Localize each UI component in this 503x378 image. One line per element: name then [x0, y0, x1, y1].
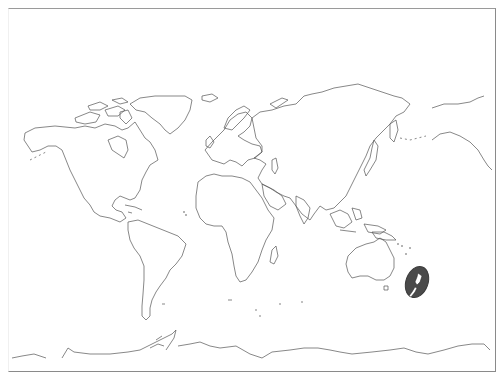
- arabian-peninsula: [262, 184, 286, 210]
- japan: [364, 140, 378, 176]
- island: [397, 243, 399, 245]
- novaya-zemlya: [270, 98, 288, 108]
- madagascar: [270, 246, 278, 264]
- australia: [346, 238, 394, 280]
- antarctic-peninsula-islands: [150, 336, 164, 348]
- alaska: [432, 132, 492, 170]
- europe: [205, 112, 262, 166]
- island: [183, 211, 185, 213]
- island: [259, 315, 260, 316]
- island: [255, 309, 256, 310]
- arctic-islands: [75, 98, 132, 124]
- asia: [252, 84, 410, 220]
- tasmania: [384, 286, 388, 290]
- hudson-bay: [108, 136, 128, 158]
- island: [401, 245, 403, 247]
- island: [279, 303, 280, 304]
- island: [409, 247, 411, 249]
- caribbean: [125, 205, 142, 213]
- british-isles: [206, 136, 214, 148]
- south-america: [128, 220, 186, 320]
- island: [405, 253, 407, 255]
- new-zealand-highlight[interactable]: [401, 263, 433, 301]
- southeast-asia: [330, 208, 386, 234]
- india: [296, 196, 310, 224]
- island: [301, 301, 302, 302]
- aleutians-west: [30, 152, 46, 160]
- aleutians: [400, 136, 426, 140]
- chukotka: [432, 96, 484, 108]
- north-america: [24, 122, 158, 222]
- caspian-sea: [272, 158, 278, 174]
- kamchatka: [390, 120, 398, 142]
- antarctica: [12, 330, 490, 358]
- iceland: [202, 94, 218, 102]
- scandinavia: [224, 106, 250, 130]
- africa: [196, 174, 274, 282]
- world-map: [0, 0, 503, 378]
- island: [185, 214, 187, 216]
